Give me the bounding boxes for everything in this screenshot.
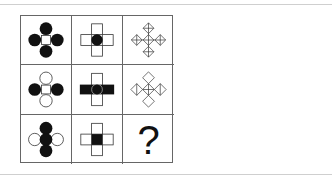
bottom-rule xyxy=(0,174,332,175)
circles-mixed-icon xyxy=(21,65,71,114)
diamonds-icon xyxy=(123,16,174,64)
cell-r2c2 xyxy=(72,65,123,115)
cell-r3c2 xyxy=(72,115,123,164)
top-rule xyxy=(0,4,332,5)
cross-circle-icon xyxy=(72,16,122,64)
cell-r2c3 xyxy=(123,65,174,115)
circles-filled-icon xyxy=(21,16,71,64)
diamonds-half-icon xyxy=(123,65,174,114)
cell-r2c1 xyxy=(21,65,72,115)
cell-r3c3: ? xyxy=(123,115,174,164)
cross-bar-icon xyxy=(72,65,122,114)
cell-r1c1 xyxy=(21,16,72,65)
cell-r1c3 xyxy=(123,16,174,65)
cell-r1c2 xyxy=(72,16,123,65)
question-mark: ? xyxy=(123,115,174,164)
cell-r3c1 xyxy=(21,115,72,164)
puzzle-grid: ? xyxy=(20,15,173,163)
cross-square-icon xyxy=(72,115,122,164)
circles-vertical-icon xyxy=(21,115,71,164)
